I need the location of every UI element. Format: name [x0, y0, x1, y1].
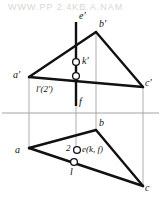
geometry-figure: WWW.PP 2.4KB.A.NAM: [0, 0, 161, 206]
point-k-prime: [73, 59, 80, 66]
label-c: c: [145, 183, 149, 193]
label-a-prime: a': [13, 70, 20, 80]
point-e-k-f: [74, 147, 81, 154]
label-c-prime: c': [145, 78, 152, 88]
label-b: b: [99, 118, 104, 128]
label-two: 2: [66, 144, 71, 153]
label-l: l: [70, 167, 73, 177]
edge-b-prime-c-prime: [96, 32, 143, 87]
label-e-k-f: e(k, f): [82, 145, 103, 154]
point-l-prime-2-prime: [73, 73, 80, 80]
label-e-prime: e': [79, 11, 86, 21]
label-b-prime: b': [99, 19, 106, 29]
label-k-prime: k': [82, 56, 89, 66]
top-view-triangle: [29, 130, 143, 186]
label-l-prime-2-prime: l'(2'): [36, 85, 53, 94]
label-f-prime: f: [79, 97, 82, 107]
point-l: [71, 159, 78, 166]
label-a: a: [15, 145, 20, 155]
